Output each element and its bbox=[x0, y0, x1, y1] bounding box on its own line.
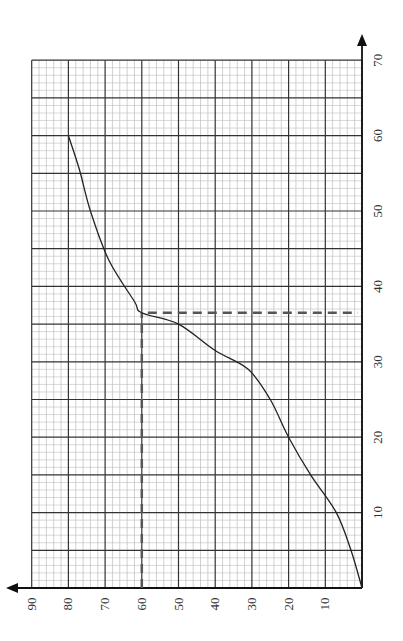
y-tick-label: 50 bbox=[171, 598, 186, 611]
y-axis-tick-labels: 102030405060708090 bbox=[24, 598, 333, 611]
x-tick-label: 40 bbox=[370, 280, 385, 293]
y-tick-label: 40 bbox=[207, 598, 222, 611]
x-tick-label: 10 bbox=[370, 506, 385, 519]
y-tick-label: 20 bbox=[281, 598, 296, 611]
x-tick-label: 20 bbox=[370, 431, 385, 444]
major-grid bbox=[32, 60, 362, 588]
x-tick-label: 70 bbox=[370, 54, 385, 67]
y-tick-label: 90 bbox=[24, 598, 39, 611]
x-tick-label: 30 bbox=[370, 355, 385, 368]
y-tick-label: 70 bbox=[97, 598, 112, 611]
rotated-graph-chart: 102030405060708090 10203040506070 bbox=[0, 0, 403, 641]
y-tick-label: 80 bbox=[60, 598, 75, 611]
y-tick-label: 10 bbox=[317, 598, 332, 611]
x-axis-tick-labels: 10203040506070 bbox=[370, 54, 385, 519]
y-tick-label: 30 bbox=[244, 598, 259, 611]
x-tick-label: 60 bbox=[370, 129, 385, 142]
y-tick-label: 60 bbox=[134, 598, 149, 611]
x-tick-label: 50 bbox=[370, 205, 385, 218]
